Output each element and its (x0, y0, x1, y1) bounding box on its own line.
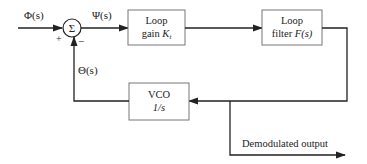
minus-sign: − (78, 35, 84, 47)
input-signal-label: Φ(s) (24, 9, 44, 22)
sigma-symbol: Σ (69, 22, 75, 34)
loop-filter-line2: filter F(s) (272, 28, 313, 40)
vco-line2: 1/s (153, 102, 165, 113)
loop-filter-line1: Loop (281, 15, 303, 26)
plus-sign: + (56, 33, 62, 44)
loop-gain-line1: Loop (145, 15, 167, 26)
error-signal-label: Ψ(s) (92, 9, 112, 22)
demodulated-output-label: Demodulated output (242, 138, 328, 149)
pll-diagram: Φ(s) Σ + − Ψ(s) Loop gain Kt Loop filter… (0, 0, 367, 164)
feedback-signal-label: Θ(s) (78, 64, 98, 77)
vco-line1: VCO (148, 89, 171, 100)
